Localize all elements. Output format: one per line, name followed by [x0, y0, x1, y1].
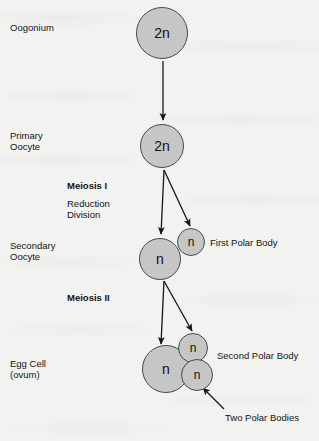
cell-oogonium-label: 2n	[154, 26, 170, 40]
cell-secondary-oocyte-label: n	[156, 252, 164, 266]
label-egg-cell-line1: Egg Cell	[10, 358, 46, 370]
label-primary-oocyte-line1: Primary	[10, 130, 43, 142]
arrow-meiosis1-to-first-polar-body	[164, 170, 190, 226]
arrow-meiosis2-to-egg-cell	[161, 281, 164, 344]
label-meiosis-two: Meiosis II	[67, 292, 110, 304]
oogenesis-diagram: 2n 2n n n n n n Oogonium Primary Oocyte …	[0, 0, 319, 441]
label-egg-cell-line2: (ovum)	[10, 369, 40, 381]
label-secondary-oocyte-line2: Oocyte	[10, 251, 40, 263]
label-reduction-line2: Division	[67, 209, 100, 221]
label-oogonium: Oogonium	[10, 22, 54, 34]
cell-first-polar-body: n	[177, 228, 205, 256]
arrow-two-polar-bodies-callout	[203, 388, 224, 409]
arrow-meiosis1-to-secondary-oocyte	[161, 170, 164, 234]
label-reduction-line1: Reduction	[67, 198, 110, 210]
cell-oogonium: 2n	[136, 7, 188, 59]
label-primary-oocyte-line2: Oocyte	[10, 141, 40, 153]
cell-first-polar-body-label: n	[188, 236, 195, 248]
label-secondary-oocyte-line1: Secondary	[10, 240, 55, 252]
cell-lower-polar-body: n	[181, 359, 213, 391]
cell-upper-polar-body-label: n	[190, 342, 197, 354]
arrow-meiosis2-to-second-polar-body	[164, 281, 192, 331]
label-meiosis-one: Meiosis I	[67, 180, 107, 192]
label-first-polar-body: First Polar Body	[210, 237, 278, 249]
cell-egg-cell-label: n	[162, 362, 170, 376]
cell-primary-oocyte: 2n	[140, 124, 184, 168]
label-second-polar-body: Second Polar Body	[217, 350, 298, 362]
cell-primary-oocyte-label: 2n	[154, 139, 170, 153]
cell-secondary-oocyte: n	[139, 238, 181, 280]
cell-lower-polar-body-label: n	[194, 369, 201, 381]
label-two-polar-bodies: Two Polar Bodies	[225, 412, 299, 424]
